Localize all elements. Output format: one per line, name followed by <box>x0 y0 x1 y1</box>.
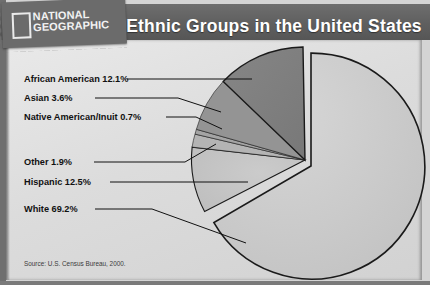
slice-label-white: White 69.2% <box>24 204 78 214</box>
figure-root: Ethnic Groups in the United States NATIO… <box>0 0 430 285</box>
leader-line-asian <box>95 98 221 112</box>
slice-label-other: Other 1.9% <box>24 157 72 167</box>
slice-label-hispanic: Hispanic 12.5% <box>24 177 91 187</box>
pie-slices <box>191 47 424 279</box>
slice-label-native-american-inuit: Native American/Inuit 0.7% <box>24 112 141 122</box>
pie-chart: African American 12.1% Asian 3.6% Native… <box>0 0 430 285</box>
source-note: Source: U.S. Census Bureau, 2000. <box>24 260 126 267</box>
slice-label-asian: Asian 3.6% <box>24 93 73 103</box>
slice-labels: African American 12.1% Asian 3.6% Native… <box>24 74 141 214</box>
slice-label-african-american: African American 12.1% <box>24 74 128 84</box>
